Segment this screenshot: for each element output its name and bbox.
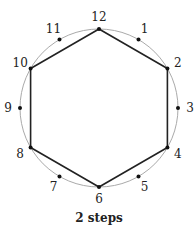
clock-label-10: 10 bbox=[13, 56, 28, 70]
clock-point-10 bbox=[29, 67, 33, 71]
clock-label-3: 3 bbox=[186, 101, 194, 115]
clock-label-5: 5 bbox=[141, 180, 149, 194]
clock-point-3 bbox=[176, 106, 180, 110]
clock-label-8: 8 bbox=[16, 147, 24, 161]
clock-point-12 bbox=[97, 27, 101, 31]
clock-step-diagram: 121234567891011 2 steps bbox=[0, 0, 194, 235]
clock-circle bbox=[20, 29, 178, 187]
clock-label-4: 4 bbox=[174, 147, 182, 161]
clock-point-7 bbox=[58, 174, 62, 178]
clock-point-4 bbox=[165, 146, 169, 150]
diagram-caption: 2 steps bbox=[75, 211, 123, 225]
clock-label-1: 1 bbox=[141, 22, 149, 36]
clock-label-9: 9 bbox=[4, 101, 12, 115]
clock-point-9 bbox=[18, 106, 22, 110]
clock-point-5 bbox=[137, 174, 141, 178]
clock-label-7: 7 bbox=[50, 180, 58, 194]
clock-point-11 bbox=[58, 38, 62, 42]
clock-point-1 bbox=[137, 38, 141, 42]
clock-label-2: 2 bbox=[174, 56, 182, 70]
clock-label-6: 6 bbox=[95, 192, 103, 206]
clock-label-11: 11 bbox=[46, 22, 61, 36]
clock-point-8 bbox=[29, 146, 33, 150]
step-polygon bbox=[31, 29, 168, 187]
clock-point-2 bbox=[165, 67, 169, 71]
clock-label-12: 12 bbox=[91, 10, 106, 24]
clock-point-6 bbox=[97, 185, 101, 189]
